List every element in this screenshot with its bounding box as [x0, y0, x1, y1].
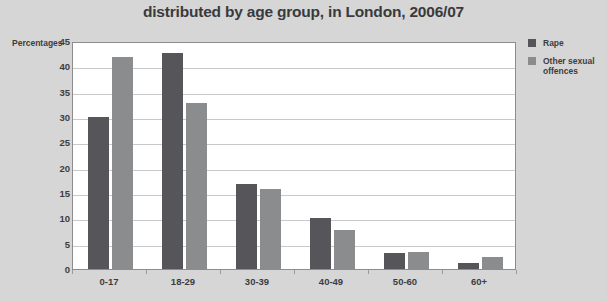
bar — [260, 189, 281, 269]
y-axis-tick-labels: 051015202530354045 — [40, 42, 70, 270]
y-tick-label: 15 — [44, 189, 70, 199]
legend-swatch-icon — [528, 57, 536, 65]
x-axis-ticks — [72, 270, 516, 275]
y-tick-label: 40 — [44, 62, 70, 72]
legend-label: Rape — [543, 38, 564, 48]
y-tick-label: 20 — [44, 164, 70, 174]
legend-entry: Rape — [528, 38, 604, 48]
chart-legend: RapeOther sexual offences — [528, 38, 604, 84]
x-tick-mark — [72, 270, 73, 274]
chart-title: distributed by age group, in London, 200… — [0, 0, 607, 26]
bar — [162, 53, 183, 269]
legend-entry: Other sexual offences — [528, 56, 604, 76]
bar — [458, 263, 479, 269]
x-tick-label: 40-49 — [319, 276, 343, 287]
bar-chart-figure: distributed by age group, in London, 200… — [0, 0, 607, 301]
x-tick-label: 50-60 — [393, 276, 417, 287]
x-tick-mark — [294, 270, 295, 274]
bar — [408, 252, 429, 269]
x-tick-mark — [220, 270, 221, 274]
x-tick-mark — [368, 270, 369, 274]
x-tick-label: 30-39 — [245, 276, 269, 287]
bar — [482, 257, 503, 269]
bar — [236, 184, 257, 269]
y-tick-label: 5 — [44, 240, 70, 250]
x-tick-mark — [146, 270, 147, 274]
bar — [88, 117, 109, 269]
y-tick-label: 45 — [44, 37, 70, 47]
x-tick-mark — [442, 270, 443, 274]
y-tick-label: 25 — [44, 138, 70, 148]
legend-swatch-icon — [528, 39, 536, 47]
x-tick-label: 60+ — [471, 276, 487, 287]
bar — [384, 253, 405, 269]
y-tick-label: 10 — [44, 214, 70, 224]
x-tick-mark — [516, 270, 517, 274]
bar — [310, 218, 331, 269]
legend-label: Other sexual offences — [543, 56, 604, 76]
plot-area — [72, 42, 516, 270]
bar — [112, 57, 133, 269]
x-axis-tick-labels: 0-1718-2930-3940-4950-6060+ — [72, 276, 516, 290]
y-tick-label: 35 — [44, 88, 70, 98]
x-tick-label: 0-17 — [99, 276, 118, 287]
x-tick-label: 18-29 — [171, 276, 195, 287]
y-tick-label: 0 — [44, 265, 70, 275]
bars-layer — [73, 43, 515, 269]
bar — [334, 230, 355, 269]
bar — [186, 103, 207, 269]
y-tick-label: 30 — [44, 113, 70, 123]
